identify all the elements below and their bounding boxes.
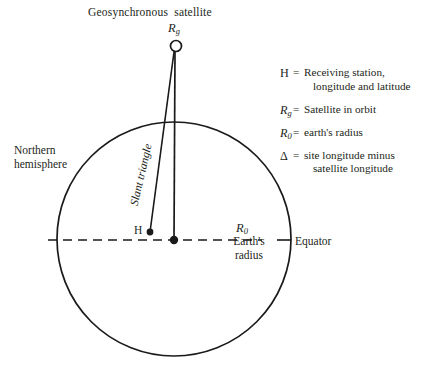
legend-equals-3: = (293, 149, 299, 161)
figure-canvas: Geosynchronous satellite Rg Northernhemi… (0, 0, 423, 370)
legend-equals-2: = (293, 126, 299, 138)
satellite-nadir-line (174, 52, 175, 240)
receiving-station-dot (147, 229, 154, 236)
legend-symbol-h: H (280, 66, 289, 81)
legend-symbol-r0: R0 (280, 126, 292, 141)
satellite-marker-icon (171, 41, 182, 52)
legend-symbol-delta-base: Δ (280, 149, 288, 163)
equator-label: Equator (295, 235, 331, 249)
legend-text-3-line1: site longitude minus (304, 149, 395, 161)
legend-equals-1: = (293, 103, 299, 115)
earth-radius-line2: radius (235, 249, 263, 261)
slant-range-line (150, 52, 174, 232)
legend-symbol-delta: Δ (280, 149, 288, 164)
earth-center-dot (170, 236, 178, 244)
legend-text-0-line2: longitude and latitude (313, 80, 423, 94)
geosynchronous-satellite-caption: Geosynchronous satellite (88, 6, 212, 20)
legend-item-satellite-orbit: Rg = Satellite in orbit (280, 103, 423, 117)
earth-radius-symbol-label: R0 (236, 221, 248, 236)
satellite-symbol-base: R (168, 21, 176, 35)
legend-text-earth-radius: earth's radius (304, 126, 423, 140)
legend-text-satellite-orbit: Satellite in orbit (304, 103, 423, 117)
legend-item-delta-longitude: Δ = site longitude minussatellite longit… (280, 149, 423, 177)
northern-hemisphere-label: Northernhemisphere (14, 144, 67, 171)
legend-text-2-line1: earth's radius (304, 126, 363, 138)
satellite-symbol-subscript: g (176, 26, 180, 36)
legend-text-3-line2: satellite longitude (313, 162, 423, 176)
legend-symbol-r0-subscript: 0 (287, 131, 291, 141)
receiving-station-point-label: H (134, 224, 142, 238)
legend-symbol-h-base: H (280, 66, 289, 80)
legend-equals-0: = (293, 66, 299, 78)
earth-radius-symbol-base: R (236, 221, 244, 235)
legend-symbol-rg-subscript: g (287, 108, 291, 118)
legend-text-0-line1: Receiving station, (304, 66, 385, 78)
legend-symbol-rg: Rg (280, 103, 292, 118)
earth-radius-line1: Earth's (233, 235, 264, 247)
earth-radius-text-label: Earth'sradius (221, 235, 277, 262)
northern-hemisphere-line2: hemisphere (14, 158, 67, 170)
legend-text-receiving-station: Receiving station,longitude and latitude (304, 66, 423, 94)
satellite-symbol-label: Rg (168, 21, 180, 36)
legend-text-delta-longitude: site longitude minussatellite longitude (304, 149, 423, 177)
legend-text-1-line1: Satellite in orbit (304, 103, 376, 115)
northern-hemisphere-line1: Northern (14, 144, 56, 156)
legend-item-earth-radius: R0 = earth's radius (280, 126, 423, 140)
legend-item-receiving-station: H = Receiving station,longitude and lati… (280, 66, 423, 94)
legend: H = Receiving station,longitude and lati… (280, 66, 423, 185)
